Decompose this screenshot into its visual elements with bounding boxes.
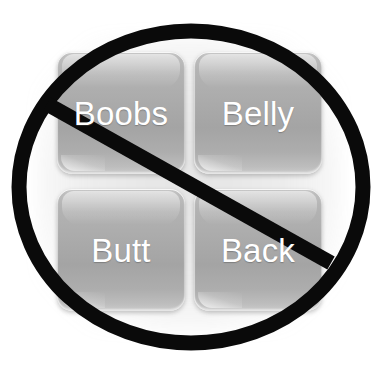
tile-label: Back [221, 234, 295, 267]
tile-grid: Boobs Belly Butt Back [57, 52, 322, 311]
tile-belly[interactable]: Belly [194, 52, 322, 174]
tile-label: Boobs [74, 97, 169, 130]
tile-boobs[interactable]: Boobs [57, 52, 185, 174]
image-canvas: Boobs Belly Butt Back [0, 0, 383, 375]
tile-label: Belly [222, 97, 295, 130]
tile-butt[interactable]: Butt [57, 189, 185, 311]
tile-label: Butt [91, 234, 151, 267]
tile-back[interactable]: Back [194, 189, 322, 311]
